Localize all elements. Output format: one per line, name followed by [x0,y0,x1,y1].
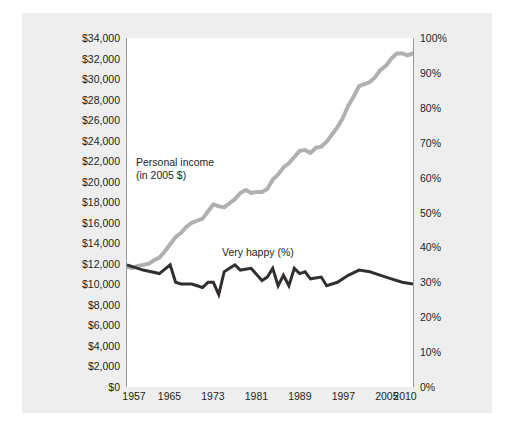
very-happy-line [127,265,413,295]
y-left-tick-label: $2,000 [88,361,120,372]
y-right-tick-label: 100% [420,33,447,44]
y-left-tick-label: $12,000 [82,259,120,270]
very-happy-annotation: Very happy (%) [222,246,294,259]
y-left-tick-label: $32,000 [82,53,120,64]
y-left-tick-label: $34,000 [82,33,120,44]
y-right-tick-label: 20% [420,312,441,323]
y-left-tick-label: $30,000 [82,74,120,85]
y-axis-right: 0%10%20%30%40%50%60%70%80%90%100% [420,38,476,387]
y-left-tick-label: $18,000 [82,197,120,208]
y-left-tick-label: $26,000 [82,115,120,126]
series-svg [127,38,413,387]
x-tick-label: 1981 [245,390,268,402]
y-right-tick-label: 70% [420,137,441,148]
personal-income-annotation: Personal income(in 2005 $) [136,156,214,182]
x-tick-label: 1989 [288,390,311,402]
y-right-tick-label: 60% [420,172,441,183]
x-tick-label: 1957 [122,390,145,402]
y-axis-left: $0$2,000$4,000$6,000$8,000$10,000$12,000… [62,38,120,387]
y-right-tick-label: 90% [420,68,441,79]
x-tick-label: 1997 [332,390,355,402]
y-right-tick-label: 30% [420,277,441,288]
y-right-tick-label: 80% [420,103,441,114]
y-left-tick-label: $24,000 [82,135,120,146]
chart-figure: $0$2,000$4,000$6,000$8,000$10,000$12,000… [0,0,514,428]
personal-income-annotation-line1: Personal income [136,156,214,168]
y-left-tick-label: $10,000 [82,279,120,290]
y-right-tick-label: 0% [420,382,435,393]
y-right-tick-label: 10% [420,347,441,358]
y-right-tick-label: 50% [420,207,441,218]
y-left-tick-label: $8,000 [88,300,120,311]
y-left-tick-label: $0 [108,382,120,393]
y-left-tick-label: $4,000 [88,341,120,352]
y-right-tick-label: 40% [420,242,441,253]
personal-income-annotation-line2: (in 2005 $) [136,169,186,181]
x-tick-label: 2010 [393,390,416,402]
y-left-tick-label: $28,000 [82,94,120,105]
plot-area [126,38,414,387]
y-left-tick-label: $14,000 [82,238,120,249]
y-left-tick-label: $6,000 [88,320,120,331]
x-tick-label: 1973 [201,390,224,402]
x-tick-label: 1965 [158,390,181,402]
y-left-tick-label: $16,000 [82,218,120,229]
x-axis: 19571965197319811989199720052010 [126,390,414,410]
y-left-tick-label: $20,000 [82,176,120,187]
y-left-tick-label: $22,000 [82,156,120,167]
